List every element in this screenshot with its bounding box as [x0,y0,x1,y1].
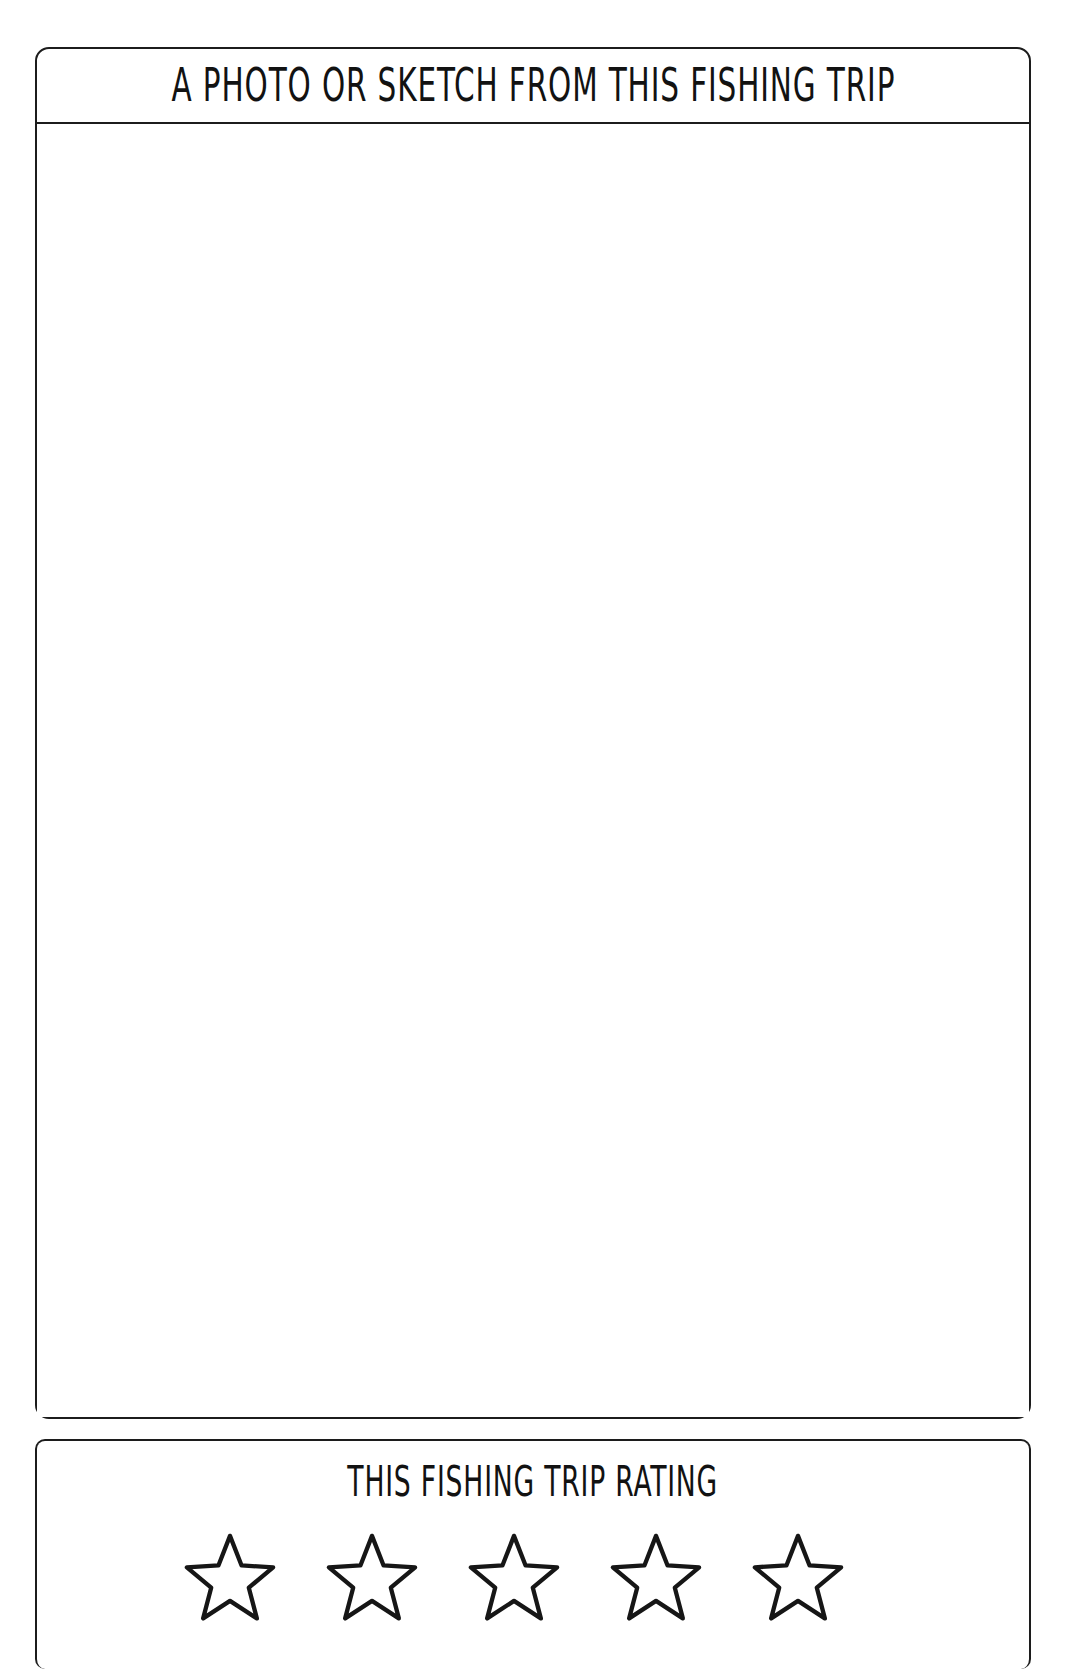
photo-sketch-panel: A PHOTO OR SKETCH FROM THIS FISHING TRIP [35,47,1031,1419]
star-outline-icon[interactable] [323,1529,421,1627]
star-outline-icon[interactable] [181,1529,279,1627]
photo-sketch-canvas[interactable] [37,124,1029,1417]
trip-rating-title-row: THIS FISHING TRIP RATING [37,1463,1029,1500]
trip-rating-title: THIS FISHING TRIP RATING [348,1460,719,1502]
photo-sketch-header: A PHOTO OR SKETCH FROM THIS FISHING TRIP [37,49,1029,124]
star-outline-icon[interactable] [749,1529,847,1627]
trip-rating-panel: THIS FISHING TRIP RATING [35,1439,1031,1669]
page-title: A PHOTO OR SKETCH FROM THIS FISHING TRIP [171,62,895,109]
star-outline-icon[interactable] [607,1529,705,1627]
trip-rating-star-group[interactable] [181,1529,847,1627]
star-outline-icon[interactable] [465,1529,563,1627]
